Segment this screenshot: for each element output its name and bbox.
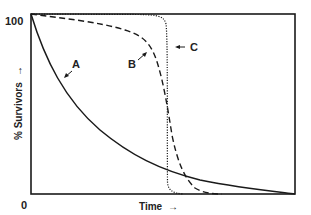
curve-c-label: C [190, 41, 198, 53]
x-axis-label: Time [139, 201, 163, 212]
y-tick-100: 100 [5, 15, 23, 27]
y-axis-label: % Survivors [13, 82, 24, 140]
curve-b-label: B [128, 58, 136, 70]
y-axis-label-group: % Survivors → [13, 66, 24, 140]
curve-a [31, 14, 295, 194]
plot-frame [31, 14, 295, 194]
curve-a-label: A [72, 58, 80, 70]
origin-label: 0 [21, 199, 27, 211]
x-axis-arrow-icon: → [168, 201, 178, 212]
curve-c-arrowhead-icon [175, 45, 180, 49]
survivorship-chart: 100 0 % Survivors → Time → A B C [0, 0, 311, 215]
y-axis-arrow-icon: → [13, 66, 24, 76]
